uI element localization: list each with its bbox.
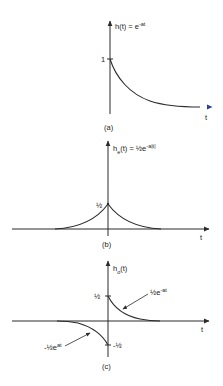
panel-a: 1 h(t) = e-at t (a) [12, 21, 212, 132]
curve-right-decay [108, 296, 160, 321]
function-label: he(t) = ½e-a|t| [113, 143, 156, 155]
x-axis-label: t [201, 325, 204, 334]
figure-impulse-responses: 1 h(t) = e-at t (a) ½ he(t) = ½e-a|t| t … [0, 0, 223, 386]
annotation-right: ½e-at [150, 287, 167, 297]
annotation-pointer-left [65, 333, 90, 346]
peak-dot [107, 203, 109, 205]
x-axis-label: t [205, 113, 208, 122]
tick-label-1: 1 [101, 55, 105, 64]
caption-c: (c) [102, 362, 111, 371]
function-label: ho(t) [113, 264, 128, 275]
annotation-left: -½eat [44, 342, 62, 352]
curve-right [108, 204, 161, 229]
tick-label-half: ½ [96, 201, 103, 210]
function-label: h(t) = e-at [115, 21, 146, 31]
x-axis-label: t [200, 233, 203, 242]
panel-c: ½ -½ ho(t) ½e-at -½eat t (c) [12, 261, 209, 371]
annotation-pointer-right [123, 294, 148, 309]
panel-b: ½ he(t) = ½e-a|t| t (b) [12, 141, 209, 249]
curve-exp-decay [110, 59, 200, 107]
tick-label-half: ½ [94, 292, 101, 301]
tick-label-neg-half: -½ [113, 341, 122, 350]
caption-b: (b) [102, 240, 112, 249]
caption-a: (a) [104, 123, 114, 132]
curve-left-negative [57, 321, 108, 345]
